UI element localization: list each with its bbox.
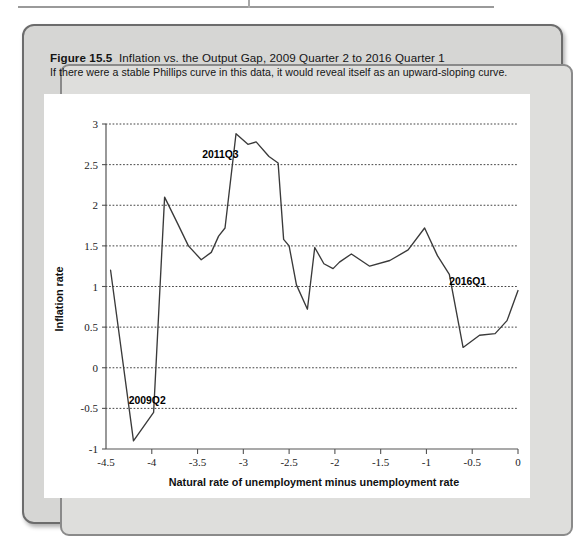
x-tick-label: -1.5 — [372, 456, 390, 468]
annotation-2011q3: 2011Q3 — [202, 149, 239, 160]
annotation-2009q2: 2009Q2 — [129, 395, 166, 406]
x-axis: -4.5-4-3.5-3-2.5-2-1.5-1-0.50 — [97, 449, 521, 468]
data-series — [111, 134, 518, 441]
y-tick-label: 3 — [93, 118, 99, 130]
y-tick-label: -0.5 — [81, 402, 99, 414]
y-tick-label: -1 — [89, 443, 98, 455]
figure-title-line: Figure 15.5 Inflation vs. the Output Gap… — [50, 50, 536, 65]
y-tick-label: 2.5 — [84, 159, 98, 171]
y-tick-label: 2 — [93, 199, 99, 211]
y-tick-label: 1.5 — [84, 240, 98, 252]
series-line — [111, 134, 518, 441]
page-top-rule — [18, 6, 494, 8]
annotation-2016q1: 2016Q1 — [449, 276, 486, 287]
x-tick-label: 0 — [515, 456, 521, 468]
figure-caption: Figure 15.5 Inflation vs. the Output Gap… — [50, 50, 536, 79]
page-top-tick — [248, 0, 250, 8]
x-axis-title: Natural rate of unemployment minus unemp… — [169, 476, 459, 488]
plot-card: -1-0.500.511.522.53 -4.5-4-3.5-3-2.5-2-1… — [44, 94, 530, 498]
x-tick-label: -3 — [239, 456, 249, 468]
inflation-output-gap-chart: -1-0.500.511.522.53 -4.5-4-3.5-3-2.5-2-1… — [44, 94, 530, 498]
x-tick-label: -3.5 — [189, 456, 207, 468]
x-tick-label: -4.5 — [97, 456, 115, 468]
x-tick-label: -2 — [330, 456, 339, 468]
y-axis-title: Inflation rate — [53, 267, 65, 332]
x-tick-label: -0.5 — [464, 456, 482, 468]
y-axis: -1-0.500.511.522.53 — [81, 118, 106, 455]
figure-title: Inflation vs. the Output Gap, 2009 Quart… — [119, 51, 445, 64]
figure-number: Figure 15.5 — [50, 51, 112, 64]
y-tick-label: 1 — [93, 281, 99, 293]
y-tick-label: 0.5 — [84, 321, 98, 333]
y-tick-label: 0 — [93, 362, 99, 374]
figure-subtitle: If there were a stable Phillips curve in… — [50, 65, 536, 79]
x-tick-label: -4 — [147, 456, 157, 468]
x-tick-label: -1 — [422, 456, 431, 468]
x-tick-label: -2.5 — [280, 456, 298, 468]
